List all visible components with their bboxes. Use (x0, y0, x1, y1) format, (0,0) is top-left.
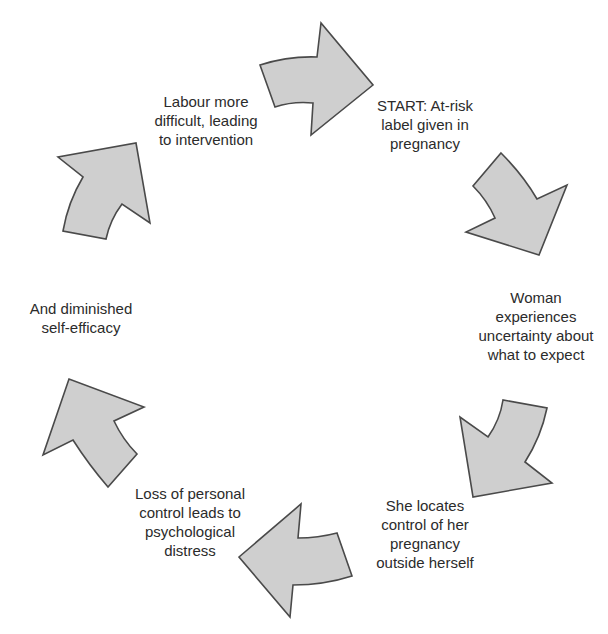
step-label-intervention: Labour more difficult, leading to interv… (148, 92, 264, 149)
step-label-uncertainty: Woman experiences uncertainty about what… (466, 288, 606, 364)
label-line: control of her (364, 515, 486, 534)
label-line: experiences (466, 307, 606, 326)
step-label-external-control: She locates control of her pregnancy out… (364, 496, 486, 572)
step-label-start: START: At-risk label given in pregnancy (370, 96, 480, 153)
arrow-intervention-to-start (260, 23, 373, 135)
label-line: And diminished (16, 299, 146, 318)
label-line: She locates (364, 496, 486, 515)
label-line: pregnancy (370, 134, 480, 153)
arrow-self-efficacy-to-intervention (58, 143, 150, 239)
label-line: what to expect (466, 345, 606, 364)
label-line: outside herself (364, 553, 486, 572)
label-line: pregnancy (364, 534, 486, 553)
label-line: control leads to (122, 503, 258, 522)
arrow-uncertainty-to-external-control (460, 400, 552, 497)
label-line: label given in (370, 115, 480, 134)
label-line: uncertainty about (466, 326, 606, 345)
arrow-start-to-uncertainty (466, 153, 567, 255)
arrow-distress-to-self-efficacy (43, 379, 144, 487)
label-line: psychological (122, 522, 258, 541)
label-line: Labour more (148, 92, 264, 111)
step-label-distress: Loss of personal control leads to psycho… (122, 484, 258, 560)
step-label-self-efficacy: And diminished self-efficacy (16, 299, 146, 337)
label-line: Loss of personal (122, 484, 258, 503)
label-line: START: At-risk (370, 96, 480, 115)
label-line: self-efficacy (16, 318, 146, 337)
label-line: distress (122, 541, 258, 560)
label-line: Woman (466, 288, 606, 307)
label-line: to intervention (148, 130, 264, 149)
label-line: difficult, leading (148, 111, 264, 130)
